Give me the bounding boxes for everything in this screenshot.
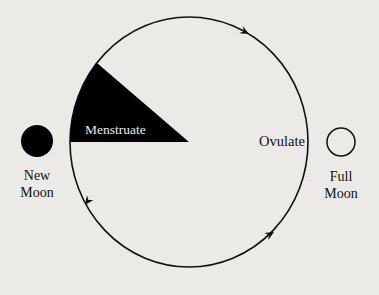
new-moon-label-line1: New bbox=[24, 168, 51, 183]
full-moon-label-line1: Full bbox=[330, 169, 353, 184]
ovulate-label: Ovulate bbox=[259, 133, 305, 149]
arrow-top-icon bbox=[239, 26, 251, 37]
full-moon-icon bbox=[327, 128, 355, 156]
new-moon-label-line2: Moon bbox=[20, 185, 53, 200]
full-moon-label-line2: Moon bbox=[324, 186, 357, 201]
cycle-diagram: Menstruate Ovulate New Moon Full Moon bbox=[0, 0, 379, 295]
new-moon-icon bbox=[21, 125, 53, 157]
menstruate-label: Menstruate bbox=[85, 122, 146, 137]
